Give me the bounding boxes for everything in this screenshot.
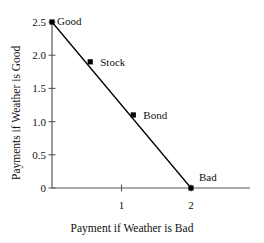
data-line-group: [52, 22, 191, 188]
data-marker-stock[interactable]: [88, 59, 93, 64]
data-line-segment: [52, 22, 191, 188]
data-marker-bond[interactable]: [131, 112, 136, 117]
point-label-good: Good: [57, 16, 81, 27]
axes-group: [52, 20, 250, 188]
y-tick-label: 2.5: [32, 17, 46, 28]
y-tick-label: 1.5: [32, 83, 46, 94]
point-label-bond: Bond: [143, 110, 167, 121]
y-axis-title: Payments if Weather is Good: [10, 46, 23, 180]
y-tick-label: 0.5: [32, 149, 46, 160]
point-label-stock: Stock: [100, 57, 125, 68]
chart-figure: 00.51.01.52.02.5 12 GoodStockBondBad Pay…: [0, 0, 264, 243]
data-marker-good[interactable]: [49, 19, 54, 24]
data-marker-bad[interactable]: [188, 185, 193, 190]
y-tick-label: 1.0: [32, 116, 46, 127]
x-tick-label: 2: [188, 200, 194, 211]
tick-marks-group: [49, 22, 192, 192]
point-label-bad: Bad: [199, 172, 217, 183]
y-tick-label: 0: [41, 183, 47, 194]
x-axis-title: Payment if Weather is Bad: [0, 222, 264, 235]
y-tick-label: 2.0: [32, 50, 46, 61]
x-tick-label: 1: [119, 200, 125, 211]
